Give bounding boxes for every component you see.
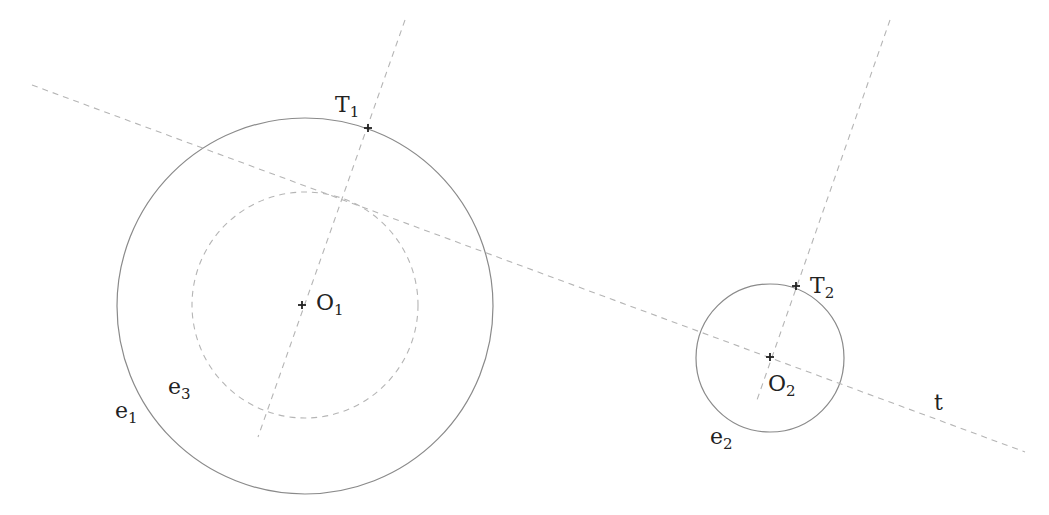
label-t2: T2 [810, 275, 834, 301]
label-t2-sub: 2 [825, 284, 835, 302]
label-t2-main: T [810, 273, 825, 298]
line-radial-2 [757, 20, 890, 400]
label-t1: T1 [335, 94, 359, 120]
label-e2-sub: 2 [723, 435, 733, 453]
label-e3-sub: 3 [181, 385, 191, 403]
line-radial-1 [258, 20, 405, 437]
label-e2-main: e [710, 424, 723, 449]
label-o1-main: O [316, 290, 334, 315]
label-e1-main: e [115, 398, 128, 423]
label-t-main: t [934, 390, 943, 415]
label-o1-sub: 1 [334, 301, 344, 319]
diagram-canvas [0, 0, 1049, 515]
label-t1-main: T [335, 92, 350, 117]
label-o2-sub: 2 [786, 382, 796, 400]
label-e2: e2 [710, 426, 733, 452]
point-marker-t1 [364, 124, 372, 132]
points-layer [298, 124, 800, 361]
point-marker-t2 [792, 282, 800, 290]
label-o2: O2 [768, 373, 796, 399]
label-t1-sub: 1 [350, 103, 360, 121]
label-e1-sub: 1 [128, 409, 138, 427]
label-o2-main: O [768, 371, 786, 396]
label-tangent-t: t [934, 392, 943, 414]
circles-layer [117, 118, 844, 494]
circle-e1 [117, 118, 493, 494]
label-e3: e3 [168, 376, 191, 402]
label-e3-main: e [168, 374, 181, 399]
label-e1: e1 [115, 400, 138, 426]
label-o1: O1 [316, 292, 344, 318]
point-marker-o1 [298, 301, 306, 309]
